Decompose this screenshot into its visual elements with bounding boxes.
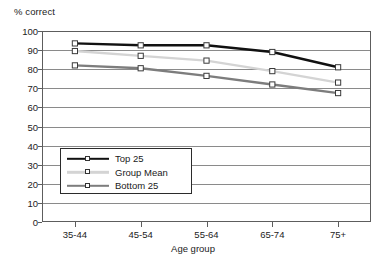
gridline <box>43 69 370 70</box>
y-tick-mark <box>38 69 42 70</box>
x-tick-mark <box>272 222 273 227</box>
legend-marker <box>85 156 90 161</box>
y-tick-mark <box>38 107 42 108</box>
legend-label: Bottom 25 <box>115 180 158 191</box>
y-tick-mark <box>38 88 42 89</box>
x-tick-mark <box>141 222 142 227</box>
gridline <box>43 107 370 108</box>
y-tick-label: 70 <box>8 83 38 94</box>
y-tick-label: 0 <box>8 217 38 228</box>
y-tick-label: 90 <box>8 45 38 56</box>
legend-marker <box>85 183 90 188</box>
y-tick-mark <box>38 222 42 223</box>
x-tick-label: 55-64 <box>194 229 218 240</box>
y-tick-label: 80 <box>8 64 38 75</box>
legend-item: Bottom 25 <box>61 179 191 193</box>
y-tick-mark <box>38 165 42 166</box>
y-tick-mark <box>38 127 42 128</box>
y-tick-label: 50 <box>8 121 38 132</box>
y-tick-mark <box>38 146 42 147</box>
y-tick-mark <box>38 184 42 185</box>
gridline <box>43 88 370 89</box>
legend-swatch <box>65 180 111 192</box>
x-tick-label: 75+ <box>330 229 346 240</box>
legend-swatch <box>65 153 111 165</box>
y-tick-mark <box>38 31 42 32</box>
legend-item: Top 25 <box>61 152 191 166</box>
y-axis-label: % correct <box>14 6 55 17</box>
chart-legend: Top 25Group MeanBottom 25 <box>60 148 192 194</box>
legend-label: Group Mean <box>115 167 168 178</box>
y-tick-label: 40 <box>8 140 38 151</box>
gridline <box>43 127 370 128</box>
y-tick-label: 60 <box>8 102 38 113</box>
chart-figure: % correct 0102030405060708090100 35-4445… <box>0 0 386 268</box>
x-tick-mark <box>207 222 208 227</box>
y-tick-label: 10 <box>8 197 38 208</box>
x-tick-mark <box>75 222 76 227</box>
y-tick-label: 20 <box>8 178 38 189</box>
gridline <box>43 50 370 51</box>
x-axis-label: Age group <box>0 243 386 254</box>
x-tick-label: 45-54 <box>129 229 153 240</box>
legend-swatch <box>65 166 111 178</box>
y-tick-label: 30 <box>8 159 38 170</box>
y-tick-mark <box>38 203 42 204</box>
y-tick-label: 100 <box>8 26 38 37</box>
x-tick-label: 65-74 <box>260 229 284 240</box>
legend-label: Top 25 <box>115 153 144 164</box>
gridline <box>43 203 370 204</box>
legend-item: Group Mean <box>61 166 191 180</box>
gridline <box>43 146 370 147</box>
y-tick-mark <box>38 50 42 51</box>
x-tick-label: 35-44 <box>63 229 87 240</box>
legend-marker <box>85 169 90 174</box>
x-tick-mark <box>338 222 339 227</box>
